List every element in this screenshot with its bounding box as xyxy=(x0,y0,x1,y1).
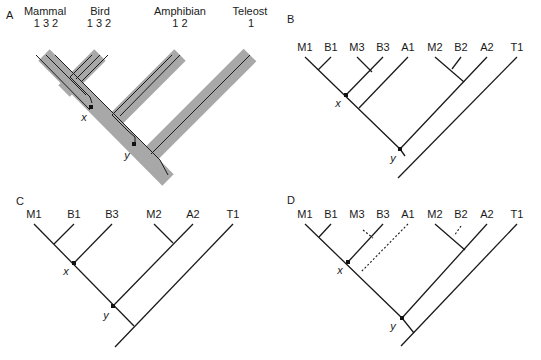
tip-label: B2 xyxy=(454,208,467,220)
tip-label: B1 xyxy=(67,208,80,220)
tree-branch xyxy=(305,224,414,333)
species-label: Bird xyxy=(90,5,110,17)
panel-label: D xyxy=(287,194,295,206)
tip-label: M2 xyxy=(146,208,161,220)
tip-label: B1 xyxy=(324,41,337,53)
gene-lineage-line xyxy=(120,55,180,116)
tip-label: M3 xyxy=(349,208,364,220)
tip-label: M2 xyxy=(427,208,442,220)
lost-gene-branch-dashed xyxy=(454,226,461,236)
tip-label: M1 xyxy=(297,41,312,53)
gene-copy-labels: 1 xyxy=(248,17,254,29)
duplication-node-marker xyxy=(346,260,350,264)
tree-branch xyxy=(435,224,465,250)
panel-d-gene-tree: DM1B1M3B3A1M2B2A2T1xy xyxy=(287,194,523,346)
tip-label: M1 xyxy=(297,208,312,220)
duplication-node-marker xyxy=(344,93,348,97)
tree-branch xyxy=(113,224,193,306)
panel-a-species-tree: AMammal1 3 2Bird1 3 2Amphibian1 2Teleost… xyxy=(6,5,267,180)
tip-label: B3 xyxy=(105,208,118,220)
panel-b-gene-tree: BM1B1M3B3A1M2B2A2T1xy xyxy=(287,13,523,178)
tip-label: M3 xyxy=(349,41,364,53)
duplication-node-marker xyxy=(89,105,93,109)
tree-branch xyxy=(54,224,74,244)
panel-label: B xyxy=(287,13,294,25)
tree-branch xyxy=(400,57,487,149)
node-label: y xyxy=(102,309,110,321)
tip-label: A2 xyxy=(480,208,493,220)
duplication-node-marker xyxy=(400,316,404,320)
tree-branch xyxy=(435,57,464,82)
panel-label: A xyxy=(6,9,14,21)
node-label: x xyxy=(62,265,69,277)
tree-branch xyxy=(348,224,383,262)
tip-label: M2 xyxy=(427,41,442,53)
lost-gene-branch-dashed xyxy=(361,224,408,272)
tree-branch xyxy=(402,224,487,318)
tree-branch xyxy=(359,57,408,108)
species-label: Teleost xyxy=(233,5,268,17)
tree-branch xyxy=(318,57,331,70)
tip-label: A2 xyxy=(186,208,199,220)
tip-label: A2 xyxy=(480,41,493,53)
tip-label: T1 xyxy=(511,41,524,53)
duplication-node-marker xyxy=(72,261,76,265)
tip-label: B2 xyxy=(454,41,467,53)
tree-branch xyxy=(319,224,331,237)
tip-label: A1 xyxy=(401,208,414,220)
duplication-node-marker xyxy=(111,304,115,308)
tip-label: B1 xyxy=(324,208,337,220)
gene-copy-labels: 1 3 2 xyxy=(34,17,58,29)
species-label: Mammal xyxy=(24,5,66,17)
node-label: y xyxy=(389,152,397,164)
tree-branch xyxy=(398,57,517,178)
node-label: y xyxy=(389,320,397,332)
tip-label: T1 xyxy=(227,208,240,220)
phylogenetic-figure: AMammal1 3 2Bird1 3 2Amphibian1 2Teleost… xyxy=(0,0,541,360)
node-label: x xyxy=(80,111,87,123)
panel-label: C xyxy=(16,195,24,207)
species-label: Amphibian xyxy=(154,5,206,17)
tree-branch xyxy=(401,224,517,346)
node-label: x xyxy=(336,264,343,276)
gene-copy-labels: 1 3 2 xyxy=(87,17,111,29)
tree-branch xyxy=(452,57,461,69)
tree-branch xyxy=(305,57,405,156)
tip-label: M1 xyxy=(26,208,41,220)
tree-branch xyxy=(34,224,134,326)
tip-label: A1 xyxy=(401,41,414,53)
tip-label: B3 xyxy=(376,208,389,220)
tip-label: T1 xyxy=(511,208,524,220)
tree-branch xyxy=(154,224,173,243)
species-branch-band xyxy=(44,55,168,180)
tip-label: B3 xyxy=(376,41,389,53)
duplication-node-marker xyxy=(132,142,136,146)
duplication-node-marker xyxy=(398,147,402,151)
tree-branch xyxy=(74,224,112,263)
gene-copy-labels: 1 2 xyxy=(172,17,187,29)
panel-c-gene-tree: CM1B1B3M2A2T1xy xyxy=(16,195,239,347)
node-label: x xyxy=(334,97,341,109)
